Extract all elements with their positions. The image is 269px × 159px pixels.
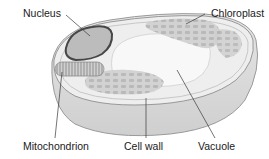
mitochondrion <box>55 62 104 76</box>
plant-cell-diagram: Nucleus Chloroplast Mitochondrion Cell w… <box>0 0 269 159</box>
label-chloroplast: Chloroplast <box>211 8 264 19</box>
label-cell-wall: Cell wall <box>124 141 163 152</box>
label-mitochondrion: Mitochondrion <box>23 141 89 152</box>
label-vacuole: Vacuole <box>198 141 235 152</box>
plant-cell-illustration <box>0 0 269 159</box>
label-nucleus: Nucleus <box>23 8 61 19</box>
